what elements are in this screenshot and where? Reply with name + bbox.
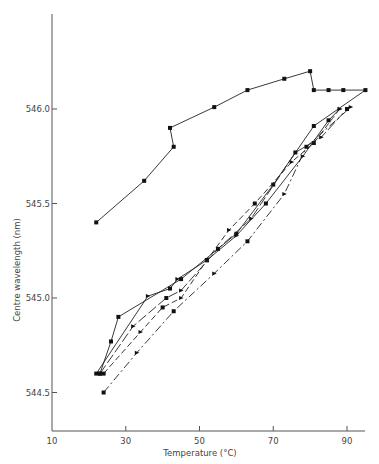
data-point-square: [168, 126, 172, 130]
data-point-square: [94, 220, 98, 224]
data-point-square: [216, 247, 220, 251]
data-point-square: [172, 309, 176, 313]
data-point-square: [212, 105, 216, 109]
data-point-square: [172, 145, 176, 149]
data-point-square: [253, 202, 257, 206]
data-point-square: [245, 88, 249, 92]
series-layer: [94, 69, 367, 394]
data-point-square: [363, 88, 367, 92]
data-point-square: [109, 339, 113, 343]
data-point-square: [168, 287, 172, 291]
data-point-square: [245, 239, 249, 243]
data-point-square: [161, 305, 165, 309]
series-5: [98, 107, 349, 376]
data-point-arrow: [179, 296, 184, 300]
data-point-square: [102, 372, 106, 376]
data-point-arrow: [349, 105, 354, 109]
series-line: [96, 71, 365, 373]
series-line: [104, 109, 340, 374]
x-tick-label: 50: [194, 436, 205, 446]
data-point-square: [116, 315, 120, 319]
x-tick-label: 30: [120, 436, 131, 446]
series-4: [102, 105, 354, 394]
series-line: [104, 107, 351, 392]
data-point-square: [312, 88, 316, 92]
data-point-arrow: [135, 351, 140, 355]
data-point-square: [308, 69, 312, 73]
y-tick-label: 545.5: [26, 199, 50, 209]
y-tick-label: 546.0: [26, 104, 50, 114]
data-point-square: [282, 77, 286, 81]
data-point-square: [327, 118, 331, 122]
data-point-square: [327, 88, 331, 92]
data-point-square: [312, 124, 316, 128]
data-point-square: [102, 391, 106, 395]
data-point-arrow: [282, 192, 287, 196]
x-tick-label: 10: [47, 436, 58, 446]
chart: 1030507090544.5545.0545.5546.0 Temperatu…: [0, 0, 379, 464]
data-point-square: [293, 150, 297, 154]
data-point-square: [345, 107, 349, 111]
data-point-square: [164, 296, 168, 300]
x-axis-title: Temperature (°C): [162, 448, 236, 458]
data-point-square: [98, 372, 102, 376]
data-point-square: [94, 372, 98, 376]
data-point-square: [142, 179, 146, 183]
series-line: [100, 109, 347, 374]
y-tick-label: 544.5: [26, 388, 50, 398]
x-tick-label: 70: [268, 436, 279, 446]
x-tick-label: 90: [342, 436, 353, 446]
data-point-square: [341, 88, 345, 92]
series-line: [96, 109, 339, 374]
series-1: [94, 69, 367, 375]
y-axis-title: Centre wavelength (nm): [12, 218, 22, 322]
axes: 1030507090544.5545.0545.5546.0: [26, 14, 365, 446]
data-point-square: [264, 202, 268, 206]
y-tick-label: 545.0: [26, 293, 50, 303]
